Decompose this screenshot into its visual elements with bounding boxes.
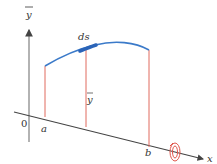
x-axis-label: x <box>207 153 213 164</box>
a-label: a <box>41 123 47 134</box>
radius-label: y <box>86 94 93 105</box>
ds-label: ds <box>78 31 90 42</box>
x-axis <box>14 112 203 159</box>
surface-of-revolution-diagram: y x 0 a b y ds <box>0 0 217 164</box>
origin-label: 0 <box>21 118 27 129</box>
y-axis-label: y <box>25 9 32 20</box>
b-label: b <box>145 147 151 158</box>
